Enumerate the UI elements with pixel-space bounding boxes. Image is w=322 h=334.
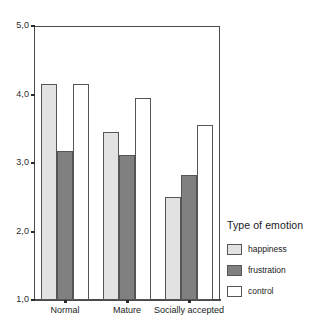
legend-label-control: control [248,286,274,296]
y-tick-label: 2,0 [16,226,29,236]
bar-control-socially-accepted [197,125,213,300]
legend-title: Type of emotion [227,219,322,231]
x-tick-mark [188,300,191,303]
x-tick-label: Mature [113,305,141,315]
x-tick-label: Socially accepted [154,305,224,315]
bar-happiness-normal [41,84,57,300]
y-tick-label: 5,0 [16,20,29,30]
x-tick-mark [64,300,67,303]
x-tick-mark [126,300,129,303]
bar-frustration-socially-accepted [181,175,197,300]
legend-swatch-frustration [227,265,242,276]
bar-frustration-mature [119,155,135,300]
legend-label-happiness: happiness [248,244,287,254]
legend-entries: happinessfrustrationcontrol [227,240,322,300]
legend-item: frustration [227,261,322,279]
bars-layer [34,26,220,300]
legend-item: happiness [227,240,322,258]
y-tick-label: 1,0 [16,294,29,304]
bar-happiness-mature [103,132,119,301]
bar-control-normal [73,84,89,300]
legend-item: control [227,282,322,300]
y-tick-label: 3,0 [16,157,29,167]
bar-happiness-socially-accepted [165,197,181,300]
legend-swatch-happiness [227,244,242,255]
bar-frustration-normal [57,151,73,300]
legend-label-frustration: frustration [248,265,286,275]
legend: Type of emotion happinessfrustrationcont… [227,219,322,303]
legend-swatch-control [227,286,242,297]
bar-chart: 1,02,03,04,05,0 NormalMatureSocially acc… [0,0,322,334]
y-tick-label: 4,0 [16,89,29,99]
x-tick-label: Normal [50,305,79,315]
bar-control-mature [135,98,151,300]
